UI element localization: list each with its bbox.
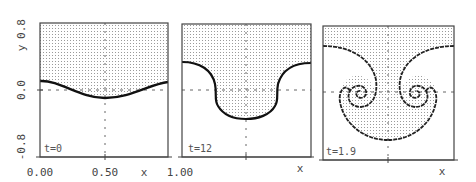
x-tick-050: 0.50 bbox=[92, 166, 119, 179]
x-tick-0: 0.00 bbox=[27, 166, 54, 179]
y-axis-label: y bbox=[15, 44, 28, 51]
figure: 0.8 y 0.0 -0.8 t=0 t=12 bbox=[0, 0, 476, 182]
time-label-t19: t=1.9 bbox=[326, 146, 356, 157]
panel-t12: t=12 bbox=[178, 24, 314, 160]
y-tick-mid: 0.0 bbox=[15, 80, 28, 100]
x-axis-label-3: x bbox=[439, 165, 446, 178]
time-label-t0: t=0 bbox=[44, 143, 62, 154]
panel-t0: t=0 bbox=[36, 23, 172, 160]
x-tick-100: 1.00 bbox=[167, 166, 194, 179]
x-axis-label-2: x bbox=[297, 162, 304, 175]
y-tick-top: 0.8 bbox=[15, 19, 28, 39]
y-tick-bot: -0.8 bbox=[15, 134, 28, 161]
x-axis-label-1: x bbox=[141, 166, 148, 179]
panel-t19: t=1.9 bbox=[319, 26, 458, 163]
time-label-t12: t=12 bbox=[188, 143, 212, 154]
